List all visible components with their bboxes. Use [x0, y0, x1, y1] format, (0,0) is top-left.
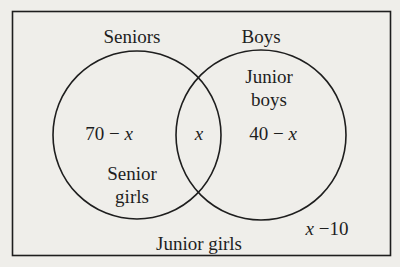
venn-diagram: Seniors Boys Junior boys 70 − x x 40 − x…: [0, 0, 400, 267]
junior-girls-label: Junior girls: [156, 234, 242, 253]
senior-girls-line1: Senior: [107, 162, 157, 185]
boys-set-label: Boys: [241, 27, 280, 46]
boys-only-value: 40 − x: [249, 124, 297, 143]
junior-boys-line2: boys: [245, 88, 293, 111]
seniors-set-label: Seniors: [104, 27, 161, 46]
seniors-only-expr: 70 − x: [85, 123, 133, 144]
junior-boys-line1: Junior: [245, 65, 293, 88]
outside-value: x −10: [306, 219, 349, 238]
senior-girls-line2: girls: [107, 185, 157, 208]
senior-girls-label: Senior girls: [107, 162, 157, 208]
seniors-only-value: 70 − x: [85, 124, 133, 143]
intersection-value: x: [195, 124, 203, 143]
junior-boys-label: Junior boys: [245, 65, 293, 111]
